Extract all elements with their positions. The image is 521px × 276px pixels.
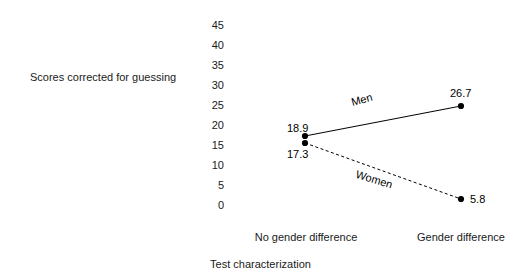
series-line-women — [305, 143, 461, 199]
x-axis-tick-gender-difference: Gender difference — [400, 231, 521, 243]
chart-container: Scores corrected for guessing 45 40 35 3… — [0, 0, 521, 276]
data-label-women-gender-difference: 5.8 — [470, 193, 485, 205]
series-line-men — [305, 106, 461, 136]
data-label-women-no-gender-difference: 17.3 — [287, 148, 308, 160]
data-point-men-gender-difference — [458, 103, 464, 109]
data-label-men-gender-difference: 26.7 — [450, 87, 471, 99]
x-axis-tick-no-gender-difference: No gender difference — [242, 231, 370, 243]
x-axis-title: Test characterization — [0, 258, 521, 270]
data-point-women-gender-difference — [458, 196, 464, 202]
data-point-women-no-gender-difference — [302, 140, 308, 146]
data-label-men-no-gender-difference: 18.9 — [287, 122, 308, 134]
